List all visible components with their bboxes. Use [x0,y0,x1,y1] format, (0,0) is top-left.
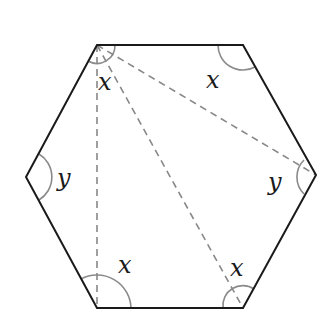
label-top-right-x: x [206,66,220,94]
label-left-y: y [56,164,71,192]
label-right-y: y [267,168,282,196]
label-top-left-x: x [98,68,112,96]
diagonal-to-right [97,45,316,175]
angle-arc-left [39,154,52,200]
label-bottom-right-x: x [230,254,244,282]
hexagon-diagram: x x y y x x [0,0,334,328]
label-bottom-left-x: x [118,251,132,279]
